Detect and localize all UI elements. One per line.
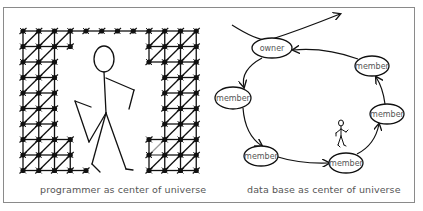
node-label: member	[329, 159, 364, 168]
right-caption: data base as center of universe	[247, 184, 401, 195]
node-label: member	[370, 110, 405, 119]
node-label: member	[355, 62, 390, 71]
node-label: member	[244, 152, 279, 161]
edge-member-member	[357, 124, 379, 154]
member-node: member	[329, 153, 364, 173]
edge-member-owner	[293, 49, 358, 59]
edge-member-member	[376, 77, 385, 104]
member-node: member	[244, 146, 279, 166]
owner-node: owner	[252, 38, 292, 58]
diagram-canvas: ownermembermembermembermembermember	[0, 0, 423, 211]
member-node: member	[215, 87, 251, 109]
left-caption: programmer as center of universe	[40, 184, 206, 195]
member-node: member	[370, 104, 405, 124]
edge-member-member	[278, 157, 329, 163]
walking-stick-figure	[75, 46, 134, 172]
node-label: owner	[260, 44, 285, 53]
member-node: member	[355, 56, 390, 76]
owner-member-ring	[232, 14, 385, 163]
node-label: member	[216, 94, 251, 103]
small-stick-figure	[336, 120, 348, 147]
edge-owner-member	[243, 58, 262, 87]
network-nodes: ownermembermembermembermembermember	[215, 38, 405, 173]
programmer-lattice-grid	[20, 28, 200, 174]
traversal-arc-arrow	[232, 14, 340, 40]
edge-member-member	[243, 108, 262, 146]
